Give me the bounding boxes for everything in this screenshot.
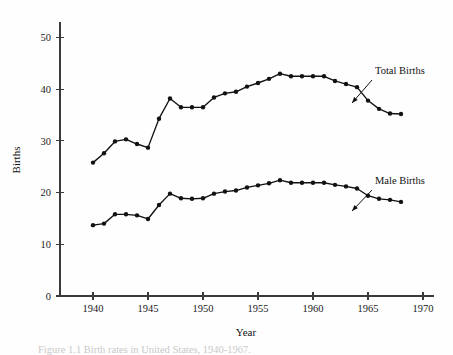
- data-point: [234, 188, 238, 192]
- data-point: [190, 197, 194, 201]
- y-tick-label: 50: [41, 32, 52, 43]
- data-point: [388, 111, 392, 115]
- data-point: [168, 191, 172, 195]
- data-point: [157, 116, 161, 120]
- data-point: [190, 105, 194, 109]
- data-point: [223, 189, 227, 193]
- x-tick-label: 1940: [83, 303, 104, 314]
- data-point: [146, 145, 150, 149]
- data-point: [113, 212, 117, 216]
- data-point: [212, 95, 216, 99]
- male-births-label: Male Births: [375, 175, 425, 186]
- data-point: [311, 181, 315, 185]
- data-point: [300, 181, 304, 185]
- data-point: [146, 217, 150, 221]
- data-point: [179, 196, 183, 200]
- data-point: [267, 181, 271, 185]
- data-point: [344, 82, 348, 86]
- data-point: [245, 185, 249, 189]
- data-point: [344, 184, 348, 188]
- data-point: [168, 96, 172, 100]
- data-point: [113, 139, 117, 143]
- data-point: [179, 105, 183, 109]
- data-point: [322, 74, 326, 78]
- y-tick-label: 40: [41, 84, 52, 95]
- data-point: [102, 221, 106, 225]
- data-point: [399, 200, 403, 204]
- data-point: [124, 137, 128, 141]
- y-tick-label: 20: [41, 187, 52, 198]
- data-point: [223, 91, 227, 95]
- data-point: [124, 212, 128, 216]
- x-tick-label: 1960: [303, 303, 324, 314]
- data-point: [91, 160, 95, 164]
- data-point: [212, 191, 216, 195]
- data-point: [256, 81, 260, 85]
- x-tick-label: 1950: [193, 303, 214, 314]
- data-point: [256, 183, 260, 187]
- x-tick-label: 1955: [248, 303, 269, 314]
- data-point: [289, 181, 293, 185]
- y-axis-title: Births: [10, 147, 22, 174]
- x-tick-label: 1970: [413, 303, 434, 314]
- data-point: [267, 77, 271, 81]
- y-tick-label: 30: [41, 136, 52, 147]
- data-point: [355, 186, 359, 190]
- y-tick-label: 0: [46, 291, 51, 302]
- data-point: [234, 90, 238, 94]
- data-point: [91, 223, 95, 227]
- data-point: [135, 213, 139, 217]
- data-point: [300, 74, 304, 78]
- data-point: [289, 74, 293, 78]
- data-point: [278, 178, 282, 182]
- data-point: [245, 84, 249, 88]
- data-point: [311, 74, 315, 78]
- data-point: [355, 85, 359, 89]
- data-point: [333, 183, 337, 187]
- births-line-chart: 01020304050 1940194519501955196019651970…: [0, 0, 453, 355]
- data-point: [388, 198, 392, 202]
- y-tick-label: 10: [41, 239, 52, 250]
- x-tick-label: 1945: [138, 303, 159, 314]
- data-point: [377, 197, 381, 201]
- data-point: [366, 98, 370, 102]
- data-point: [157, 203, 161, 207]
- total-births-label: Total Births: [375, 65, 425, 76]
- data-point: [278, 72, 282, 76]
- data-point: [201, 196, 205, 200]
- x-axis-title: Year: [236, 326, 257, 338]
- data-point: [322, 181, 326, 185]
- data-point: [135, 142, 139, 146]
- x-tick-label: 1965: [358, 303, 379, 314]
- data-point: [102, 151, 106, 155]
- figure-container: 01020304050 1940194519501955196019651970…: [0, 0, 453, 355]
- data-point: [201, 105, 205, 109]
- data-point: [377, 107, 381, 111]
- data-point: [399, 112, 403, 116]
- data-point: [333, 79, 337, 83]
- figure-caption: Figure 1.1 Birth rates in United States,…: [38, 344, 251, 355]
